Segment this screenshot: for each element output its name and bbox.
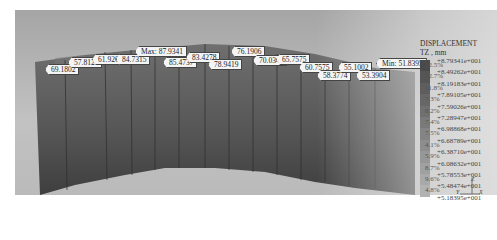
- axis-y-label: Y: [456, 189, 459, 195]
- legend-level-value: +6.68789e+001: [437, 137, 481, 145]
- legend-level-value: +6.38710e+001: [437, 148, 481, 156]
- legend-component: TZ , mm: [420, 49, 477, 58]
- legend-level-value: +6.08632e+001: [437, 160, 481, 168]
- legend-level-value: +7.59026e+001: [437, 103, 481, 111]
- probe-label: 78.9419: [208, 59, 242, 70]
- legend-level-value: +8.79341e+001: [437, 57, 481, 65]
- legend-title: DISPLACEMENT TZ , mm: [420, 40, 477, 57]
- axis-x-label: X: [479, 189, 483, 195]
- legend-level-value: +8.49262e+001: [437, 68, 481, 76]
- max-probe-label: Max: 87.9341: [135, 46, 187, 57]
- legend-level-value: +6.98868e+001: [437, 125, 481, 133]
- legend-level-value: +7.28947e+001: [437, 114, 481, 122]
- probe-label: 53.3904: [356, 70, 390, 81]
- legend-level-value: +8.19183e+001: [437, 80, 481, 88]
- axis-z-label: Z: [471, 176, 474, 182]
- legend-level-value: +7.89105e+001: [437, 91, 481, 99]
